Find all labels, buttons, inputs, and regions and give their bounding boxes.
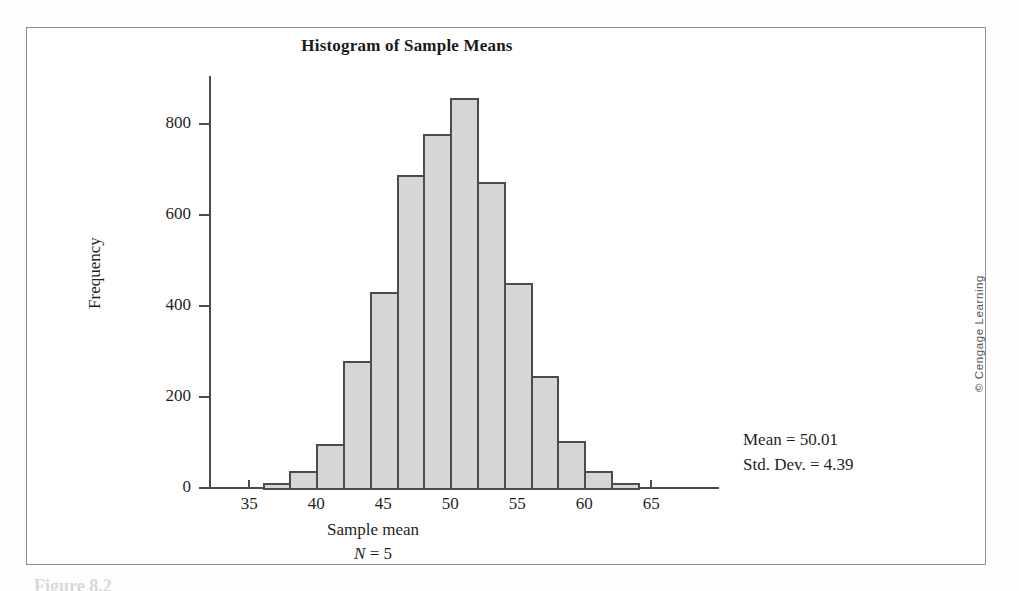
x-axis-tick [650, 480, 652, 489]
figure-caption: Figure 8.2 [34, 576, 112, 591]
y-axis-line [209, 76, 211, 489]
histogram-bar [423, 134, 452, 490]
y-axis-tick-label-text: 600 [135, 204, 191, 224]
y-axis-tick [199, 214, 209, 216]
histogram-bar [504, 283, 533, 490]
histogram-bar [477, 182, 506, 490]
x-axis-tick-label: 35 [224, 494, 274, 514]
y-axis-tick-label: 0 [131, 477, 191, 497]
histogram-bar [584, 471, 613, 490]
x-axis-tick-label: 50 [425, 494, 475, 514]
histogram-bar [397, 175, 426, 490]
histogram-bar [343, 361, 372, 490]
y-axis-tick [199, 305, 209, 307]
statistics-annotation: Mean = 50.01 Std. Dev. = 4.39 [743, 428, 853, 477]
y-axis-tick-label: 400 [131, 295, 191, 315]
mean-annotation: Mean = 50.01 [743, 428, 853, 453]
y-axis-tick [199, 123, 209, 125]
x-axis-tick-label: 60 [559, 494, 609, 514]
x-axis-tick-label: 40 [291, 494, 341, 514]
figure-page: Histogram of Sample Means 0200400600800 … [0, 0, 1019, 591]
y-axis-tick-label: 200 [131, 386, 191, 406]
histogram-bar [531, 376, 560, 490]
x-axis-tick-label: 45 [358, 494, 408, 514]
sample-size-value: = 5 [365, 544, 392, 563]
histogram-bar [450, 98, 479, 490]
plot-area: 0200400600800 35404550556065 Frequency S… [27, 28, 987, 566]
y-axis-tick [199, 396, 209, 398]
sample-size-symbol: N [354, 544, 365, 563]
y-axis-tick-label-text: 800 [135, 113, 191, 133]
histogram-bar [370, 292, 399, 490]
y-axis-tick [199, 487, 209, 489]
x-axis-tick [248, 480, 250, 489]
y-axis-tick-label: 800 [131, 113, 191, 133]
y-axis-tick-label: 600 [131, 204, 191, 224]
histogram-bar [289, 471, 318, 490]
y-axis-tick-label-text: 200 [135, 386, 191, 406]
y-axis-tick-label-text: 0 [135, 477, 191, 497]
histogram-bar [611, 483, 640, 490]
x-axis-sample-size-label: N = 5 [209, 544, 537, 564]
copyright-notice: © Cengage Learning [973, 202, 985, 392]
figure-frame: Histogram of Sample Means 0200400600800 … [26, 27, 986, 565]
histogram-bar [263, 483, 292, 490]
y-axis-title: Frequency [85, 193, 105, 353]
histogram-bar [557, 441, 586, 490]
x-axis-tick-label: 55 [492, 494, 542, 514]
x-axis-tick-label: 65 [626, 494, 676, 514]
x-axis-title: Sample mean [209, 520, 537, 540]
stddev-annotation: Std. Dev. = 4.39 [743, 453, 853, 478]
histogram-bar [316, 444, 345, 490]
y-axis-tick-label-text: 400 [135, 295, 191, 315]
